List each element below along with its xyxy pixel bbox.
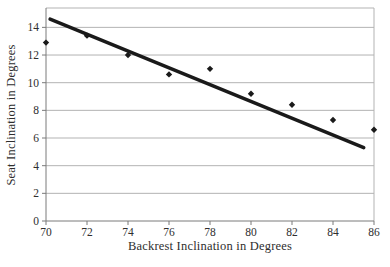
y-tick-label: 8 xyxy=(33,104,39,116)
x-tick-label: 70 xyxy=(40,226,52,238)
y-tick-label: 10 xyxy=(28,77,40,89)
y-tick-label: 6 xyxy=(33,132,39,144)
plot-svg: 70727476788082848602468101214 xyxy=(0,0,390,267)
data-point-marker xyxy=(43,39,49,45)
y-tick-label: 2 xyxy=(33,187,39,199)
trendline xyxy=(50,19,364,148)
data-point-marker xyxy=(289,102,295,108)
x-axis-title: Backrest Inclination in Degrees xyxy=(46,239,374,254)
y-tick-label: 12 xyxy=(28,49,40,61)
y-tick-label: 0 xyxy=(33,215,39,227)
x-tick-label: 80 xyxy=(245,226,257,238)
x-tick-label: 86 xyxy=(368,226,380,238)
data-point-marker xyxy=(330,117,336,123)
y-tick-label: 14 xyxy=(28,21,40,33)
y-tick-label: 4 xyxy=(33,160,39,172)
y-axis-title: Seat Inclination in Degrees xyxy=(4,44,19,185)
x-tick-label: 82 xyxy=(286,226,298,238)
data-point-marker xyxy=(166,71,172,77)
data-point-marker xyxy=(248,91,254,97)
x-tick-label: 84 xyxy=(327,226,339,238)
data-point-marker xyxy=(371,127,377,133)
data-point-marker xyxy=(207,66,213,72)
x-tick-label: 72 xyxy=(81,226,93,238)
x-tick-label: 76 xyxy=(163,226,175,238)
x-tick-label: 78 xyxy=(204,226,216,238)
scatter-chart: 70727476788082848602468101214 Seat Incli… xyxy=(0,0,390,267)
x-tick-label: 74 xyxy=(122,226,134,238)
